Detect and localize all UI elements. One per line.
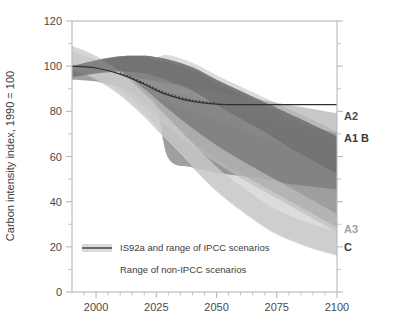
x-tick-label-2050: 2050 xyxy=(204,301,228,313)
y-tick-label-60: 60 xyxy=(50,151,62,163)
carbon-intensity-chart: 020406080100120 20002025205020752100 Car… xyxy=(0,0,394,336)
legend-label-nonipcc: Range of non-IPCC scenarios xyxy=(120,264,246,275)
legend-label-ipcc: IS92a and range of IPCC scenarios xyxy=(120,242,270,253)
scenario-label-a2: A2 xyxy=(344,110,358,122)
y-tick-label-100: 100 xyxy=(44,60,62,72)
x-tick-label-2100: 2100 xyxy=(325,301,349,313)
scenario-label-a1b: A1 B xyxy=(344,132,369,144)
y-tick-label-80: 80 xyxy=(50,105,62,117)
y-tick-label-20: 20 xyxy=(50,241,62,253)
x-tick-label-2075: 2075 xyxy=(265,301,289,313)
scenario-label-a3: A3 xyxy=(344,223,358,235)
y-tick-label-120: 120 xyxy=(44,15,62,27)
chart-figure: 020406080100120 20002025205020752100 Car… xyxy=(0,0,394,336)
y-tick-label-0: 0 xyxy=(56,286,62,298)
x-tick-label-2025: 2025 xyxy=(144,301,168,313)
scenario-label-c: C xyxy=(344,241,352,253)
y-axis-title: Carbon intensity index, 1990 = 100 xyxy=(4,71,16,241)
x-tick-label-2000: 2000 xyxy=(84,301,108,313)
y-tick-label-40: 40 xyxy=(50,196,62,208)
